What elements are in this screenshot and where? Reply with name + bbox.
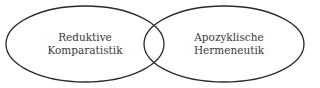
left-set-label: Reduktive Komparatistik <box>45 31 125 57</box>
left-label-line2: Komparatistik <box>45 44 125 57</box>
right-set-label: Apozyklische Hermeneutik <box>184 31 274 57</box>
right-label-line1: Apozyklische <box>184 31 274 44</box>
left-label-line1: Reduktive <box>45 31 125 44</box>
right-label-line2: Hermeneutik <box>184 44 274 57</box>
